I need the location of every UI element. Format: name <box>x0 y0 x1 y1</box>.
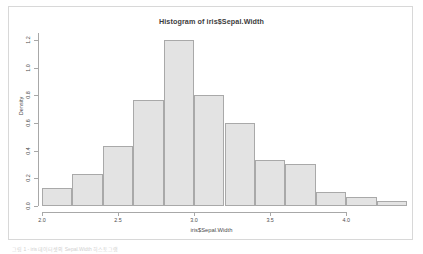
y-axis-tick <box>34 123 38 124</box>
y-axis-tick <box>34 206 38 207</box>
x-axis-title: iris$Sepal.Width <box>9 227 414 233</box>
y-axis-tick-label: 0.4 <box>25 146 31 156</box>
histogram-bar <box>316 192 346 206</box>
y-axis-tick <box>34 68 38 69</box>
y-axis-tick <box>34 40 38 41</box>
histogram-bar <box>133 100 163 206</box>
x-axis-tick <box>118 212 119 216</box>
y-axis-tick-label: 0.0 <box>25 201 31 211</box>
histogram-bar <box>285 164 315 206</box>
histogram-bar <box>225 123 255 206</box>
y-axis-tick-label: 0.8 <box>25 90 31 100</box>
x-axis-tick <box>270 212 271 216</box>
histogram-bar <box>103 146 133 206</box>
histogram-bar <box>194 95 224 206</box>
histogram-bar <box>255 160 285 206</box>
x-axis-tick-label: 2.0 <box>32 217 52 223</box>
y-axis-tick <box>34 178 38 179</box>
y-axis-tick <box>34 151 38 152</box>
histogram-bars <box>42 33 407 206</box>
y-axis-tick-label: 0.6 <box>25 118 31 128</box>
screenshot-root: Histogram of iris$Sepal.Width 0.00.20.40… <box>0 0 423 254</box>
y-axis-title: Density <box>18 86 24 126</box>
x-axis-tick-label: 3.0 <box>184 217 204 223</box>
x-axis-tick <box>194 212 195 216</box>
plot-title: Histogram of iris$Sepal.Width <box>9 17 414 26</box>
histogram-bar <box>377 201 407 206</box>
y-axis-line <box>38 33 39 206</box>
histogram-bar <box>72 174 102 206</box>
x-axis-tick <box>346 212 347 216</box>
y-axis-tick-label: 0.2 <box>25 173 31 183</box>
x-axis-tick <box>42 212 43 216</box>
figure-frame: Histogram of iris$Sepal.Width 0.00.20.40… <box>8 6 413 240</box>
x-axis-tick-label: 2.5 <box>108 217 128 223</box>
y-axis-tick-label: 1.0 <box>25 63 31 73</box>
y-axis-tick-label: 1.2 <box>25 35 31 45</box>
histogram-bar <box>346 197 376 206</box>
histogram-bar <box>164 40 194 206</box>
plot-area <box>42 33 407 206</box>
histogram-bar <box>42 188 72 206</box>
figure-caption: 그림 1 - iris 데이터셋의 Sepal.Width 히스토그램 <box>12 245 412 254</box>
y-axis-tick <box>34 95 38 96</box>
x-axis-tick-label: 4.0 <box>336 217 356 223</box>
x-axis-tick-label: 3.5 <box>260 217 280 223</box>
